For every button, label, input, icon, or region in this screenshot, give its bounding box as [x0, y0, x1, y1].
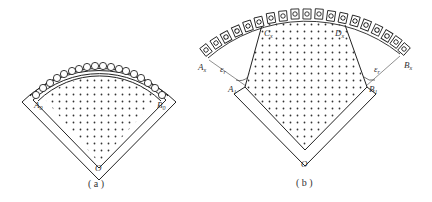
caption-b: ( b ) [296, 177, 313, 189]
dotted-region-a [30, 60, 170, 170]
label-epsilon-right: εr [374, 64, 381, 75]
line-bx-b1 [366, 56, 400, 86]
line-ax-a1 [209, 60, 246, 86]
figure-canvas: A0 B0 O ( a ) [0, 0, 432, 202]
label-epsilon-left: εr [220, 64, 227, 75]
label-a0: A0 [33, 100, 43, 111]
label-ax: Ax [197, 62, 207, 73]
label-a1: A1 [227, 84, 237, 95]
label-b1: B1 [369, 84, 378, 95]
caption-a: ( a ) [88, 178, 104, 190]
dotted-region-b [246, 22, 366, 149]
panel-a: A0 B0 O ( a ) [22, 60, 176, 190]
panel-b: Ax A1 εr Bx B1 εr Cx Dx O ( b ) [197, 9, 413, 189]
label-bx: Bx [404, 60, 413, 71]
label-o-a: O [95, 163, 102, 173]
label-o-b: O [301, 159, 308, 169]
